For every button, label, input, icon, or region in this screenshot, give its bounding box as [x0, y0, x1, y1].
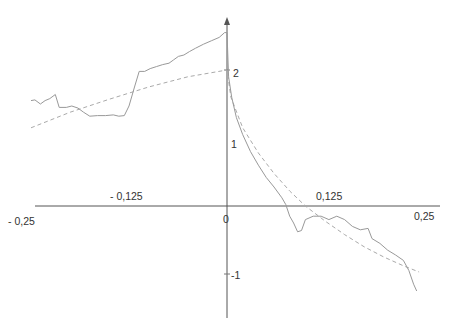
chart-canvas: - 0,25 - 0,125 0 0,125 0,25 2 1 -1 [0, 0, 454, 335]
y-tick-label-2: 2 [233, 67, 239, 79]
x-tick-label-zero: 0 [223, 213, 229, 225]
y-tick-label-1: 1 [231, 138, 237, 150]
x-tick-label-neg-025: - 0,25 [8, 215, 35, 227]
x-tick-label-neg-0125: - 0,125 [110, 190, 143, 202]
y-axis-arrow-icon [224, 17, 230, 25]
observed-path-solid [31, 33, 417, 291]
fitted-curve-dashed [31, 70, 419, 272]
x-tick-label-pos-0125: 0,125 [316, 190, 342, 202]
y-tick-label-neg1: -1 [231, 269, 240, 281]
x-tick-label-pos-025: 0,25 [414, 210, 435, 222]
